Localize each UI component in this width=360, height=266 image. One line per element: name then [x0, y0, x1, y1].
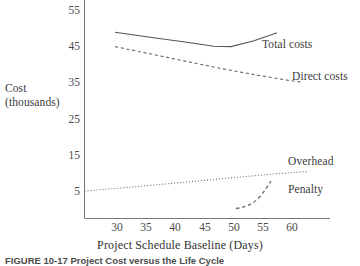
y-tick-5: 5: [50, 185, 80, 197]
figure-caption: FIGURE 10-17 Project Cost versus the Lif…: [5, 255, 224, 266]
series-label-direct-costs: Direct costs: [292, 70, 348, 82]
series-line-penalty: [236, 181, 271, 208]
x-tick-45: 45: [192, 221, 218, 233]
y-tick-45: 45: [50, 40, 80, 52]
x-tick-50: 50: [221, 221, 247, 233]
series-line-direct-costs: [115, 47, 302, 83]
series-label-total-costs: Total costs: [262, 38, 312, 50]
series-label-overhead: Overhead: [288, 155, 334, 167]
series-label-penalty: Penalty: [288, 183, 323, 195]
x-tick-55: 55: [250, 221, 276, 233]
x-tick-30: 30: [104, 221, 130, 233]
y-tick-15: 15: [50, 149, 80, 161]
x-axis-title: Project Schedule Baseline (Days): [0, 238, 360, 253]
y-tick-25: 25: [50, 113, 80, 125]
y-axis-title-line2: (thousands): [5, 96, 60, 110]
x-tick-60: 60: [279, 221, 305, 233]
x-tick-35: 35: [133, 221, 159, 233]
y-tick-35: 35: [50, 76, 80, 88]
series-line-total-costs: [115, 32, 277, 46]
x-tick-40: 40: [162, 221, 188, 233]
y-tick-55: 55: [50, 4, 80, 16]
series-line-overhead: [85, 172, 308, 192]
